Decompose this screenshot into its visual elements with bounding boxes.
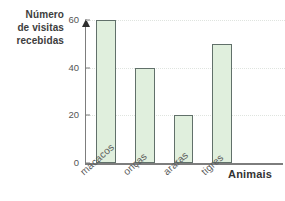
y-axis-title-line-3: recebidas <box>2 34 64 47</box>
x-axis-line <box>85 163 283 165</box>
y-tick-label-40: 40 <box>68 62 79 73</box>
y-tick-label-0: 0 <box>74 157 79 168</box>
x-axis-title: Animais <box>228 168 272 180</box>
y-axis-line <box>85 20 86 163</box>
y-tick-mark-60: 60 <box>85 20 90 21</box>
bar-macacos <box>96 20 116 163</box>
bar-tigres <box>212 44 232 163</box>
y-axis-title: Número de visitas recebidas <box>2 8 64 47</box>
y-axis-title-line-1: Número <box>2 8 64 21</box>
y-tick-mark-20: 20 <box>85 115 90 116</box>
y-tick-label-60: 60 <box>68 14 79 25</box>
y-tick-mark-40: 40 <box>85 67 90 68</box>
y-axis-title-line-2: de visitas <box>2 21 64 34</box>
bar-oncas <box>135 68 155 163</box>
plot-area: 60 40 20 0 macacos onças araras tigres <box>85 14 285 164</box>
x-category-label-tigres: tigres <box>199 152 225 177</box>
bar-chart: Número de visitas recebidas 60 40 20 0 <box>0 0 285 201</box>
y-tick-label-20: 20 <box>68 109 79 120</box>
